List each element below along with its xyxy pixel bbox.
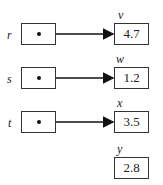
pointer-label-t: t: [8, 117, 11, 129]
pointer-dot-s: [37, 76, 41, 80]
pointer-dot-t: [37, 120, 41, 124]
value-label-x: x: [117, 97, 122, 109]
value-label-w: w: [116, 53, 124, 65]
pointer-label-r: r: [7, 29, 12, 41]
pointer-dot-r: [37, 32, 41, 36]
value-box-v: 4.7: [114, 23, 149, 45]
value-box-x: 3.5: [114, 111, 149, 133]
pointer-label-s: s: [7, 73, 12, 85]
value-box-w: 1.2: [114, 67, 149, 89]
value-label-y: y: [117, 143, 122, 155]
value-label-v: v: [118, 9, 123, 21]
value-box-y: 2.8: [114, 157, 149, 179]
